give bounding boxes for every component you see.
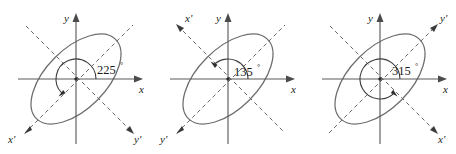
y-axis-arrowhead-icon <box>225 13 232 22</box>
origin-point <box>378 77 381 80</box>
y-axis-label: y <box>63 12 69 24</box>
y-prime-axis-label: y' <box>133 133 142 145</box>
x-prime-axis-label: x' <box>184 12 193 24</box>
y-prime-arrowhead-icon <box>126 126 134 134</box>
y-prime-axis-label: y' <box>159 133 168 145</box>
diagram-panel-225: 225 ° x y x' y' <box>0 0 152 154</box>
x-prime-axis-label: x' <box>7 133 16 145</box>
diagram-panel-315: 315 ° x y x' y' <box>304 0 456 154</box>
y-axis-label: y <box>215 12 221 24</box>
angle-value-label: 135 <box>234 65 253 79</box>
rotated-axes-figure: 225 ° x y x' y' <box>0 0 456 154</box>
origin-point <box>74 77 77 80</box>
angle-value-label: 225 <box>97 63 116 77</box>
y-axis-label: y <box>367 12 373 24</box>
x-prime-arrowhead-icon <box>430 126 438 134</box>
x-axis-label: x <box>138 83 144 95</box>
x-prime-axis-label: x' <box>437 133 446 145</box>
origin-point <box>226 77 229 80</box>
y-prime-axis-label: y' <box>439 12 448 24</box>
degree-symbol: ° <box>257 63 260 72</box>
degree-symbol: ° <box>415 62 418 71</box>
x-axis-arrowhead-icon <box>286 76 295 83</box>
x-axis-arrowhead-icon <box>438 76 447 83</box>
x-axis-label: x <box>290 83 296 95</box>
x-axis-label: x <box>442 83 448 95</box>
y-axis-arrowhead-icon <box>73 13 80 22</box>
degree-symbol: ° <box>120 61 123 70</box>
x-axis-arrowhead-icon <box>134 76 143 83</box>
diagram-panel-135: 135 ° x y x' y' <box>152 0 304 154</box>
x-prime-arrowhead-icon <box>176 24 184 32</box>
y-axis-arrowhead-icon <box>377 13 384 22</box>
angle-value-label: 315 <box>392 64 411 78</box>
